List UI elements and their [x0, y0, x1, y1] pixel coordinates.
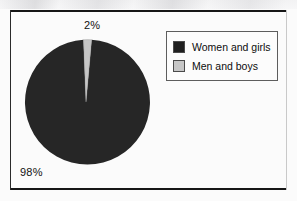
figure-container: 2% 98% Women and girls Men and boys — [0, 0, 297, 201]
legend-item-women-and-girls: Women and girls — [173, 37, 271, 56]
data-label-large-slice: 98% — [20, 166, 43, 178]
frame-rule-left — [10, 10, 11, 190]
scan-texture-band — [0, 0, 297, 9]
legend-label-women-and-girls: Women and girls — [192, 41, 271, 53]
chart-legend: Women and girls Men and boys — [166, 31, 278, 81]
frame-rule-right — [286, 10, 287, 190]
legend-swatch-light — [173, 60, 185, 72]
pie-chart-svg — [22, 38, 150, 166]
legend-item-men-and-boys: Men and boys — [173, 56, 271, 75]
frame-rule-top — [10, 10, 287, 12]
legend-label-men-and-boys: Men and boys — [192, 60, 258, 72]
legend-swatch-dark — [173, 41, 185, 53]
data-label-small-slice: 2% — [84, 19, 100, 31]
frame-rule-bottom — [10, 188, 287, 190]
pie-chart — [22, 38, 150, 166]
